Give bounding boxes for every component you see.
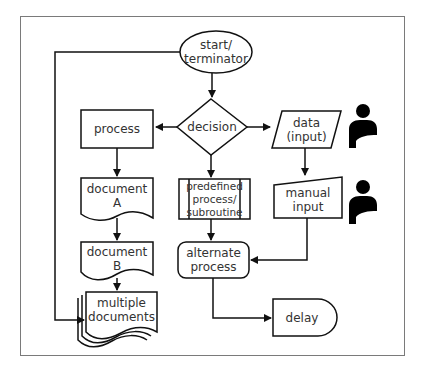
- start-terminator-label: start/ terminator: [180, 34, 252, 70]
- predefined-process-label: predefined process/ subroutine: [189, 179, 240, 219]
- label-line: manual: [286, 186, 331, 200]
- label-line: B: [113, 259, 121, 273]
- edge-alternate-delay: [213, 278, 271, 318]
- person-icon: [349, 180, 377, 224]
- flowchart-canvas: start/ terminator decision process data …: [0, 0, 422, 375]
- alternate-process-label: alternate process: [178, 242, 249, 278]
- label-line: process: [190, 260, 236, 274]
- label-line: document: [87, 245, 148, 259]
- data-input-label: data (input): [276, 112, 337, 148]
- person-icon: [349, 104, 377, 148]
- label-line: data: [293, 116, 320, 130]
- document-b-label: document B: [81, 244, 153, 274]
- label-line: multiple: [97, 296, 146, 310]
- delay-label: delay: [273, 299, 331, 336]
- label-line: documents: [88, 310, 155, 324]
- edge-manual-alternate: [251, 218, 307, 260]
- label-line: A: [113, 196, 121, 210]
- label-line: predefined: [186, 180, 243, 193]
- label-line: start/: [200, 38, 232, 52]
- label-line: decision: [187, 120, 236, 134]
- manual-input-label: manual input: [274, 182, 342, 218]
- document-a-label: document A: [81, 181, 153, 211]
- label-line: process/: [193, 193, 237, 206]
- process-label: process: [81, 110, 153, 148]
- label-line: alternate: [186, 246, 241, 260]
- label-line: input: [293, 200, 324, 214]
- decision-label: decision: [177, 119, 247, 135]
- label-line: document: [87, 182, 148, 196]
- label-line: terminator: [184, 52, 248, 66]
- label-line: (input): [286, 130, 326, 144]
- multiple-documents-label: multiple documents: [86, 294, 157, 326]
- label-line: subroutine: [186, 206, 242, 219]
- label-line: delay: [286, 311, 319, 325]
- label-line: process: [94, 122, 140, 136]
